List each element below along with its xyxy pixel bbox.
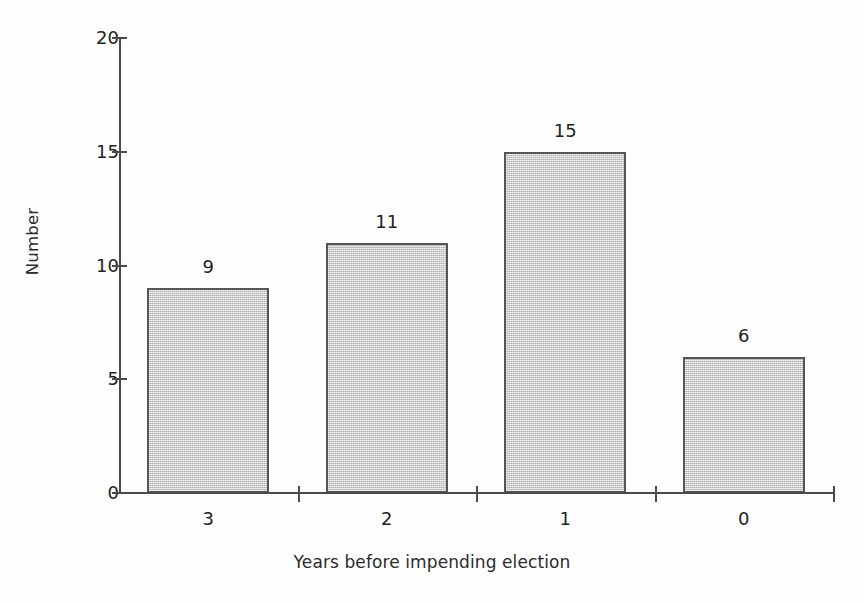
x-tick-label-3: 3 (148, 508, 268, 529)
y-tick-mark (112, 378, 127, 380)
y-tick-mark (112, 37, 127, 39)
bar-chart: Number 05101520 911156 3210 Years before… (0, 0, 864, 602)
x-axis-end-tick (833, 486, 835, 502)
x-tick-mark (476, 486, 478, 502)
bar-value-label-1: 15 (505, 120, 625, 141)
bar-value-label-0: 6 (684, 325, 804, 346)
bar-value-label-3: 9 (148, 256, 268, 277)
bar-3[interactable] (147, 288, 269, 493)
bar-0[interactable] (683, 357, 805, 494)
x-tick-label-0: 0 (684, 508, 804, 529)
x-tick-mark (298, 486, 300, 502)
x-tick-label-1: 1 (505, 508, 625, 529)
bar-value-label-2: 11 (327, 211, 447, 232)
x-tick-label-2: 2 (327, 508, 447, 529)
y-axis-title: Number (23, 182, 42, 302)
bar-2[interactable] (326, 243, 448, 493)
bar-1[interactable] (504, 152, 626, 493)
x-axis-title: Years before impending election (0, 552, 864, 572)
x-tick-mark (655, 486, 657, 502)
y-tick-mark (112, 265, 127, 267)
y-tick-mark (112, 151, 127, 153)
